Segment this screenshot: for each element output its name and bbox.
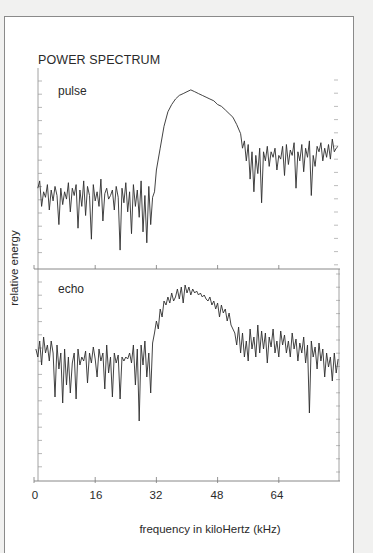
pulse-panel-axes [34,68,340,269]
pulse-spectrum-line [38,90,338,250]
echo-spectrum-line [36,285,338,421]
echo-panel-axes [34,269,340,483]
page: POWER SPECTRUM relative energy pulse ech… [0,0,373,553]
x-tick-label-0: 0 [32,489,38,501]
x-tick-label-48: 48 [211,489,224,501]
x-tick-label-32: 32 [150,489,163,501]
power-spectrum-plot [0,0,373,553]
x-axis-label: frequency in kiloHertz (kHz) [120,523,300,535]
panel-label-echo: echo [58,282,84,296]
x-tick-label-64: 64 [271,489,284,501]
x-tick-label-16: 16 [90,489,103,501]
panel-label-pulse: pulse [58,84,87,98]
